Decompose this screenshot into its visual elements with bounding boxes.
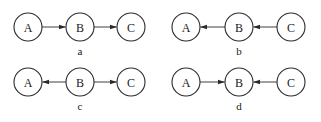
node-b: B — [225, 68, 253, 96]
node-b: B — [66, 68, 94, 96]
node-label: B — [235, 21, 243, 35]
node-label: A — [24, 21, 33, 35]
node-c: C — [117, 68, 145, 96]
panel-caption: c — [78, 100, 83, 112]
panel-d: ABCd — [172, 68, 305, 112]
node-label: C — [287, 21, 295, 35]
node-label: A — [24, 76, 33, 90]
node-label: B — [76, 21, 84, 35]
node-b: B — [66, 13, 94, 41]
node-b: B — [225, 13, 253, 41]
node-label: C — [287, 76, 295, 90]
panel-caption: a — [78, 45, 83, 57]
node-c: C — [277, 68, 305, 96]
node-a: A — [14, 68, 42, 96]
node-a: A — [172, 13, 200, 41]
graph-diagram-canvas: ABCaABCbABCcABCd — [0, 0, 321, 122]
panel-caption: b — [236, 45, 242, 57]
panel-c: ABCc — [14, 68, 145, 112]
node-a: A — [14, 13, 42, 41]
node-label: A — [182, 21, 191, 35]
node-c: C — [117, 13, 145, 41]
node-label: C — [127, 21, 135, 35]
node-label: B — [235, 76, 243, 90]
diagram-panels: ABCaABCbABCcABCd — [14, 13, 305, 112]
node-label: B — [76, 76, 84, 90]
panel-b: ABCb — [172, 13, 305, 57]
node-label: A — [182, 76, 191, 90]
panel-a: ABCa — [14, 13, 145, 57]
node-label: C — [127, 76, 135, 90]
panel-caption: d — [236, 100, 242, 112]
node-c: C — [277, 13, 305, 41]
node-a: A — [172, 68, 200, 96]
